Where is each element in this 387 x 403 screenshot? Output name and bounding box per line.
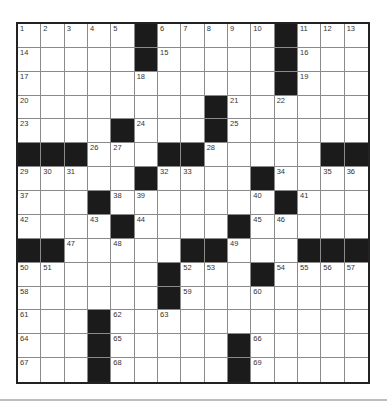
grid-cell[interactable]: 20 — [18, 96, 41, 120]
grid-cell[interactable] — [298, 119, 321, 143]
grid-cell[interactable] — [251, 48, 274, 72]
grid-cell[interactable] — [321, 334, 344, 358]
grid-cell[interactable]: 17 — [18, 72, 41, 96]
grid-cell[interactable]: 18 — [135, 72, 158, 96]
grid-cell[interactable] — [275, 119, 298, 143]
grid-cell[interactable]: 44 — [135, 215, 158, 239]
grid-cell[interactable]: 69 — [251, 358, 274, 382]
grid-cell[interactable] — [158, 334, 181, 358]
grid-cell[interactable]: 37 — [18, 191, 41, 215]
grid-cell[interactable] — [41, 191, 64, 215]
grid-cell[interactable] — [275, 239, 298, 263]
grid-cell[interactable] — [65, 215, 88, 239]
grid-cell[interactable] — [65, 119, 88, 143]
grid-cell[interactable] — [65, 334, 88, 358]
grid-cell[interactable] — [345, 310, 368, 334]
grid-cell[interactable] — [181, 191, 204, 215]
grid-cell[interactable] — [41, 287, 64, 311]
grid-cell[interactable] — [228, 310, 251, 334]
grid-cell[interactable] — [298, 96, 321, 120]
grid-cell[interactable] — [205, 191, 228, 215]
grid-cell[interactable]: 10 — [251, 24, 274, 48]
grid-cell[interactable]: 54 — [275, 263, 298, 287]
grid-cell[interactable] — [135, 263, 158, 287]
grid-cell[interactable] — [345, 96, 368, 120]
grid-cell[interactable]: 52 — [181, 263, 204, 287]
grid-cell[interactable]: 56 — [321, 263, 344, 287]
grid-cell[interactable] — [251, 72, 274, 96]
grid-cell[interactable]: 50 — [18, 263, 41, 287]
grid-cell[interactable] — [345, 215, 368, 239]
grid-cell[interactable]: 61 — [18, 310, 41, 334]
grid-cell[interactable] — [298, 358, 321, 382]
grid-cell[interactable] — [181, 119, 204, 143]
grid-cell[interactable] — [158, 96, 181, 120]
grid-cell[interactable] — [345, 287, 368, 311]
grid-cell[interactable] — [345, 72, 368, 96]
grid-cell[interactable] — [298, 287, 321, 311]
grid-cell[interactable]: 39 — [135, 191, 158, 215]
grid-cell[interactable] — [88, 263, 111, 287]
grid-cell[interactable] — [111, 96, 134, 120]
grid-cell[interactable] — [158, 191, 181, 215]
grid-cell[interactable] — [298, 215, 321, 239]
grid-cell[interactable]: 8 — [205, 24, 228, 48]
grid-cell[interactable] — [251, 310, 274, 334]
grid-cell[interactable] — [88, 48, 111, 72]
grid-cell[interactable]: 34 — [275, 167, 298, 191]
grid-cell[interactable]: 40 — [251, 191, 274, 215]
grid-cell[interactable] — [135, 96, 158, 120]
grid-cell[interactable] — [205, 72, 228, 96]
grid-cell[interactable]: 49 — [228, 239, 251, 263]
grid-cell[interactable] — [298, 334, 321, 358]
grid-cell[interactable]: 23 — [18, 119, 41, 143]
grid-cell[interactable]: 60 — [251, 287, 274, 311]
grid-cell[interactable] — [321, 358, 344, 382]
grid-cell[interactable]: 63 — [158, 310, 181, 334]
grid-cell[interactable] — [321, 96, 344, 120]
grid-cell[interactable] — [321, 72, 344, 96]
grid-cell[interactable] — [158, 215, 181, 239]
grid-cell[interactable]: 31 — [65, 167, 88, 191]
grid-cell[interactable]: 36 — [345, 167, 368, 191]
grid-cell[interactable] — [321, 287, 344, 311]
grid-cell[interactable] — [321, 48, 344, 72]
grid-cell[interactable] — [251, 239, 274, 263]
grid-cell[interactable] — [65, 48, 88, 72]
grid-cell[interactable]: 22 — [275, 96, 298, 120]
grid-cell[interactable]: 19 — [298, 72, 321, 96]
grid-cell[interactable] — [88, 239, 111, 263]
grid-cell[interactable] — [228, 48, 251, 72]
grid-cell[interactable]: 59 — [181, 287, 204, 311]
grid-cell[interactable] — [345, 358, 368, 382]
grid-cell[interactable]: 5 — [111, 24, 134, 48]
grid-cell[interactable] — [41, 72, 64, 96]
grid-cell[interactable] — [205, 215, 228, 239]
grid-cell[interactable] — [251, 143, 274, 167]
grid-cell[interactable]: 7 — [181, 24, 204, 48]
grid-cell[interactable] — [41, 358, 64, 382]
grid-cell[interactable]: 30 — [41, 167, 64, 191]
grid-cell[interactable] — [321, 119, 344, 143]
grid-cell[interactable] — [111, 263, 134, 287]
grid-cell[interactable] — [228, 143, 251, 167]
grid-cell[interactable]: 32 — [158, 167, 181, 191]
grid-cell[interactable]: 38 — [111, 191, 134, 215]
grid-cell[interactable]: 33 — [181, 167, 204, 191]
grid-cell[interactable]: 51 — [41, 263, 64, 287]
grid-cell[interactable]: 25 — [228, 119, 251, 143]
grid-cell[interactable]: 66 — [251, 334, 274, 358]
grid-cell[interactable] — [181, 96, 204, 120]
grid-cell[interactable] — [88, 72, 111, 96]
grid-cell[interactable] — [135, 239, 158, 263]
grid-cell[interactable] — [41, 48, 64, 72]
grid-cell[interactable]: 68 — [111, 358, 134, 382]
grid-cell[interactable]: 58 — [18, 287, 41, 311]
grid-cell[interactable]: 57 — [345, 263, 368, 287]
grid-cell[interactable] — [251, 119, 274, 143]
grid-cell[interactable] — [41, 96, 64, 120]
grid-cell[interactable]: 24 — [135, 119, 158, 143]
grid-cell[interactable] — [181, 72, 204, 96]
grid-cell[interactable] — [65, 72, 88, 96]
grid-cell[interactable] — [275, 310, 298, 334]
